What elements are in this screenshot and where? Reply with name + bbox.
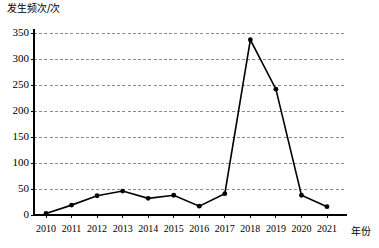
data-point-marker <box>69 203 74 208</box>
data-point-marker <box>299 193 304 198</box>
y-tick-label: 50 <box>18 183 29 194</box>
data-point-marker <box>44 211 49 216</box>
gridlines-group <box>34 33 345 189</box>
data-point-marker <box>95 193 100 198</box>
series-polyline <box>46 40 327 214</box>
y-tick-label: 100 <box>13 157 30 168</box>
tick-marks-group <box>31 33 327 218</box>
y-tick-label: 0 <box>24 209 30 220</box>
data-point-marker <box>197 204 202 209</box>
data-point-marker <box>325 204 330 209</box>
data-point-marker <box>171 193 176 198</box>
data-point-marker <box>274 87 279 92</box>
data-point-marker <box>146 196 151 201</box>
line-chart: 发生频次/次 年份 050100150200250300350 20102011… <box>0 0 379 248</box>
data-point-marker <box>120 189 125 194</box>
data-point-marker <box>248 37 253 42</box>
y-tick-label: 150 <box>13 131 30 142</box>
data-point-marker <box>222 191 227 196</box>
plot-area <box>0 0 379 248</box>
y-tick-label: 300 <box>13 53 30 64</box>
y-tick-label: 200 <box>13 105 30 116</box>
data-line <box>46 40 327 214</box>
y-tick-label: 350 <box>13 27 30 38</box>
y-tick-label: 250 <box>13 79 30 90</box>
x-tick-label: 2021 <box>311 224 343 234</box>
